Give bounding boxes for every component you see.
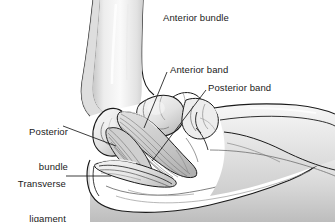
humerus-shaft <box>81 0 154 116</box>
label-anterior-bundle: Anterior bundle <box>163 12 229 24</box>
label-transverse-ligament-line1: Transverse <box>4 178 66 190</box>
label-posterior-band: Posterior band <box>208 82 271 94</box>
label-transverse-ligament-line2: ligament <box>4 213 66 223</box>
label-transverse-ligament: Transverse ligament <box>4 155 66 222</box>
label-anterior-band: Anterior band <box>170 64 228 76</box>
illustration-root: Anterior bundle Anterior band Posterior … <box>0 0 335 222</box>
label-posterior-bundle-line1: Posterior <box>8 126 68 138</box>
